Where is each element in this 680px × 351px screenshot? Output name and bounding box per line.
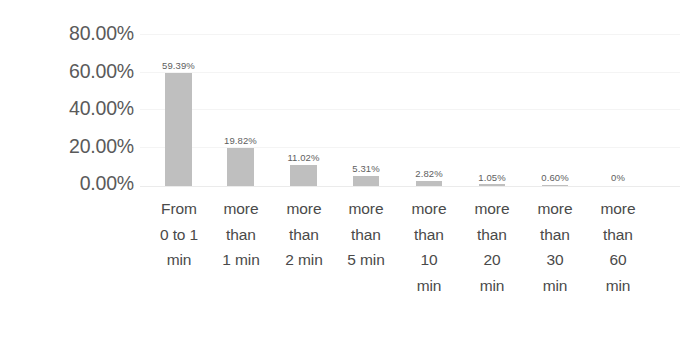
x-axis-category-label: more than 10 min [398, 196, 460, 298]
bar-slot: 59.39% [165, 34, 192, 186]
bar-value-label: 1.05% [478, 173, 505, 183]
axis-baseline [140, 186, 680, 187]
x-axis-label-line: 5 min [335, 247, 397, 273]
x-axis-category-label: more than 60 min [587, 196, 649, 298]
y-axis-tick-label: 0.00% [0, 174, 134, 194]
x-axis-label-line: than [210, 222, 272, 248]
y-axis-tick-label: 60.00% [0, 62, 134, 82]
x-axis-label-line: than [273, 222, 335, 248]
bar-value-label: 0.60% [541, 173, 568, 183]
x-axis-label-line: min [524, 273, 586, 299]
gridline [140, 72, 680, 73]
x-axis-label-line: more [524, 196, 586, 222]
x-axis-category-label: more than 1 min [210, 196, 272, 273]
bar[interactable] [542, 185, 568, 186]
x-axis-label-line: than [461, 222, 523, 248]
bar[interactable] [479, 184, 505, 186]
bar-value-label: 19.82% [224, 136, 257, 146]
bar[interactable] [416, 181, 442, 186]
plot-area: 59.39% 19.82% 11.02% 5.31% 2.82% 1.05% 0… [140, 34, 680, 186]
bar-value-label: 59.39% [162, 61, 195, 71]
bar[interactable] [227, 148, 254, 186]
bar-slot: 19.82% [227, 34, 254, 186]
x-axis-label-line: than [335, 222, 397, 248]
bar-value-label: 0% [611, 173, 625, 183]
bar-value-label: 5.31% [352, 164, 379, 174]
x-axis-label-line: 30 [524, 247, 586, 273]
y-axis-tick-label: 80.00% [0, 24, 134, 44]
x-axis-label-line: From [148, 196, 210, 222]
x-axis-label-line: more [587, 196, 649, 222]
x-axis-category-label: more than 5 min [335, 196, 397, 273]
x-axis-label-line: 0 to 1 [148, 222, 210, 248]
x-axis-category-label: From 0 to 1 min [148, 196, 210, 273]
bar-slot: 5.31% [353, 34, 379, 186]
x-axis-label-line: more [398, 196, 460, 222]
x-axis-label-line: 20 [461, 247, 523, 273]
bar-slot: 2.82% [416, 34, 442, 186]
bar-slot: 0.60% [542, 34, 568, 186]
y-axis: 80.00% 60.00% 40.00% 20.00% 0.00% [0, 0, 134, 351]
x-axis-label-line: than [398, 222, 460, 248]
bar-chart: 80.00% 60.00% 40.00% 20.00% 0.00% 59.39%… [0, 0, 680, 351]
x-axis-category-label: more than 2 min [273, 196, 335, 273]
bar[interactable] [290, 165, 317, 186]
bar-slot: 0% [605, 34, 631, 186]
x-axis-label-line: min [148, 247, 210, 273]
bar[interactable] [165, 73, 192, 186]
x-axis-label-line: more [273, 196, 335, 222]
y-axis-tick-label: 40.00% [0, 99, 134, 119]
x-axis-label-line: more [210, 196, 272, 222]
x-axis-label-line: min [398, 273, 460, 299]
bar-value-label: 11.02% [287, 153, 319, 163]
x-axis-label-line: more [335, 196, 397, 222]
gridline [140, 34, 680, 35]
x-axis-category-label: more than 20 min [461, 196, 523, 298]
x-axis-label-line: than [524, 222, 586, 248]
x-axis-label-line: 2 min [273, 247, 335, 273]
bar-slot: 11.02% [290, 34, 317, 186]
x-axis-label-line: 1 min [210, 247, 272, 273]
bar-slot: 1.05% [479, 34, 505, 186]
gridline [140, 109, 680, 110]
gridline [140, 147, 680, 148]
x-axis: From 0 to 1 min more than 1 min more tha… [140, 196, 680, 346]
x-axis-label-line: min [587, 273, 649, 299]
bar-value-label: 2.82% [415, 169, 442, 179]
x-axis-label-line: 10 [398, 247, 460, 273]
x-axis-label-line: 60 [587, 247, 649, 273]
x-axis-label-line: min [461, 273, 523, 299]
bar[interactable] [353, 176, 379, 186]
y-axis-tick-label: 20.00% [0, 137, 134, 157]
x-axis-label-line: than [587, 222, 649, 248]
x-axis-label-line: more [461, 196, 523, 222]
x-axis-category-label: more than 30 min [524, 196, 586, 298]
